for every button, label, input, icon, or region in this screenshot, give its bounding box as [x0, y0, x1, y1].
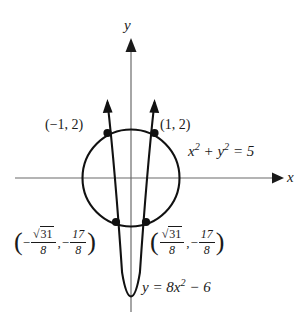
fraction-denominator: 8 [160, 243, 185, 257]
math-figure [0, 0, 301, 322]
negative-sign-y: − [191, 236, 198, 249]
fraction-numerator: √31 [160, 228, 185, 243]
fraction-numerator: 17 [199, 228, 215, 243]
fraction-sqrt31-over-8: √318 [31, 228, 56, 256]
fraction-denominator: 8 [199, 243, 215, 257]
fraction-denominator: 8 [70, 243, 86, 257]
circle-equation-label: x2 + y2 = 5 [188, 144, 254, 159]
fraction-numerator: √31 [31, 228, 56, 243]
x-axis [15, 173, 284, 184]
fraction-17-over-8: 178 [199, 228, 215, 256]
paren-open: ( [150, 231, 159, 253]
y-axis-arrowhead [126, 38, 137, 52]
intersection-point-upper-left [103, 129, 111, 137]
fraction-17-over-8: 178 [70, 228, 86, 256]
parabola-equation-label: y = 8x2 − 6 [142, 280, 211, 295]
point-label-lower-left: (−√318,−178) [14, 228, 96, 256]
point-label-lower-right: (√318,−178) [150, 228, 225, 256]
paren-close: ) [87, 231, 96, 253]
sqrt-icon: √31 [33, 228, 54, 241]
fraction-sqrt31-over-8: √318 [160, 228, 185, 256]
parabola-equation-text: y = 8x2 − 6 [142, 279, 211, 295]
negative-sign-y: − [62, 236, 69, 249]
point-label-right: (1, 2) [160, 118, 190, 132]
intersection-point-upper-right [150, 129, 158, 137]
y-axis-label: y [124, 18, 131, 33]
parabola-right-arrowhead [149, 99, 159, 113]
fraction-denominator: 8 [31, 243, 56, 257]
paren-open: ( [14, 231, 23, 253]
x-axis-label: x [287, 170, 294, 185]
point-label-left: (−1, 2) [45, 118, 83, 132]
negative-sign-x: − [23, 236, 30, 249]
y-axis [126, 38, 137, 312]
intersection-point-lower-right [142, 218, 150, 226]
paren-close: ) [216, 231, 225, 253]
circle-equation-text: x2 + y2 = 5 [188, 143, 254, 159]
fraction-numerator: 17 [70, 228, 86, 243]
parabola-left-arrowhead [103, 99, 113, 113]
intersection-point-lower-left [112, 218, 120, 226]
sqrt-icon: √31 [162, 228, 183, 241]
x-axis-arrowhead [272, 173, 284, 184]
